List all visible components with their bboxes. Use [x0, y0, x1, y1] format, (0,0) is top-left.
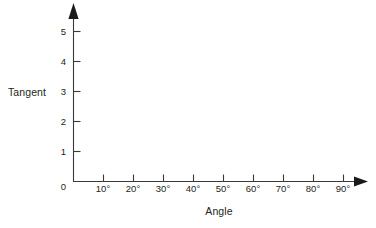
x-tick-label-10: 10°: [88, 184, 118, 194]
blank-tangent-angle-chart: Tangent Angle 5 4 3 2 1 0 10° 20° 30° 40…: [0, 0, 376, 228]
x-tick-label-80: 80°: [298, 184, 328, 194]
y-axis-arrowhead-icon: [68, 3, 78, 19]
y-axis-ticks: [74, 32, 81, 152]
origin-label-zero: 0: [50, 182, 66, 192]
x-tick-label-30: 30°: [148, 184, 178, 194]
y-tick-label-4: 4: [50, 57, 66, 67]
x-axis-ticks: [104, 175, 344, 182]
x-tick-label-50: 50°: [208, 184, 238, 194]
y-tick-label-2: 2: [50, 117, 66, 127]
x-tick-label-90: 90°: [328, 184, 358, 194]
x-axis-title: Angle: [0, 205, 376, 217]
x-tick-label-40: 40°: [178, 184, 208, 194]
y-tick-label-5: 5: [50, 27, 66, 37]
x-tick-label-70: 70°: [268, 184, 298, 194]
y-tick-label-3: 3: [50, 87, 66, 97]
x-tick-label-20: 20°: [118, 184, 148, 194]
x-tick-label-60: 60°: [238, 184, 268, 194]
y-axis-title: Tangent: [8, 86, 46, 98]
y-tick-label-1: 1: [50, 147, 66, 157]
